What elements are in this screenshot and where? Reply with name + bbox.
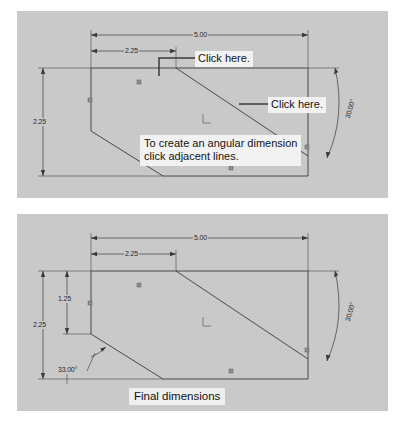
origin-marker [203,114,211,123]
dim-width-arrow-left [91,33,97,37]
dim-notch-arrow-left [91,49,97,53]
callout-click-here-diagonal-edge: Click here. [268,97,326,113]
figure-page: 5.00 2.25 2.25 30.00° Click here. Click … [0,0,405,423]
grip-left-edge [88,301,92,305]
dim-right-angle-arc [327,271,339,361]
grip-handles [88,283,309,373]
dim-height-arrow-bottom [41,373,45,379]
dim-height-arrow-top [41,68,45,74]
dim-height-arrow-top [41,271,45,277]
origin-marker [203,317,211,326]
angular-dimension-instruction-tip: To create an angular dimension click adj… [140,135,301,166]
dimension-value-overall-height: 2.25 [32,118,47,126]
callout-click-here-top-edge: Click here. [195,51,253,67]
dim-angle-arrow-bottom [326,152,331,158]
grip-top-edge [137,80,141,84]
dim-right-angle-arrow-bottom [326,355,331,361]
dimension-value-notch-width: 2.25 [124,47,139,55]
grip-left-edge [88,98,92,102]
dimension-value-overall-width: 5.00 [193,234,208,242]
dim-upper-height-arrow-bottom [65,328,69,334]
bottom-panel-drawing [17,214,388,411]
dim-width-arrow-left [91,236,97,240]
dimension-value-notch-width: 2.25 [124,250,139,258]
callout-leader-top [159,58,196,76]
dim-left-angle-leader [87,353,95,371]
dimension-value-left-chamfer-angle: 33.00° [57,366,78,374]
dim-notch-arrow-left [91,252,97,256]
grip-right-edge [305,145,309,149]
grip-bottom-edge [229,166,233,170]
grip-bottom-edge [229,369,233,373]
dim-width-arrow-right [302,236,308,240]
top-panel-drawing [17,11,388,198]
dimension-value-upper-left-height: 1.25 [57,295,72,303]
dim-height-arrow-bottom [41,170,45,176]
final-dimensions-panel: 5.00 2.25 1.25 2.25 30.00° 33.00° Final … [17,214,388,411]
dim-upper-height-arrow-top [65,271,69,277]
dim-notch-arrow-right [170,252,176,256]
lower-left-chamfer [91,334,163,379]
grip-right-edge [305,348,309,352]
dimension-value-overall-height: 2.25 [32,321,47,329]
instruction-line-1: To create an angular dimension [144,137,297,150]
instruction-line-2: click adjacent lines. [144,150,297,163]
dim-notch-arrow-right [170,49,176,53]
grip-top-edge [137,283,141,287]
dimension-value-overall-width: 5.00 [193,31,208,39]
diagonal-edge [176,271,308,359]
dim-width-arrow-right [302,33,308,37]
final-dimensions-caption: Final dimensions [129,388,225,405]
angular-dimension-instruction-panel: 5.00 2.25 2.25 30.00° Click here. Click … [17,11,388,198]
dim-angle-arc [327,68,339,158]
